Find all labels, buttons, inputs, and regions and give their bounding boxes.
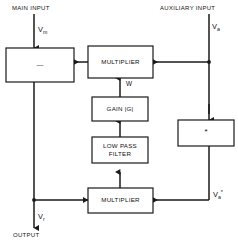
diagram-canvas [0, 0, 238, 246]
va-conj-sub: a [218, 194, 221, 200]
signal-label-vm: Vm [38, 25, 47, 34]
junction-dot-output [32, 198, 36, 202]
lower-multiplier-block [88, 188, 153, 213]
gain-block [92, 97, 148, 121]
signal-label-vr: Vr [38, 212, 45, 221]
va-sub: a [217, 26, 220, 32]
signal-label-va-conjugate: Va* [213, 190, 223, 199]
low-pass-filter-block [92, 137, 148, 163]
summer-symbol: — [6, 61, 74, 68]
auxiliary-input-label: AUXILIARY INPUT [160, 5, 215, 11]
junction-dot-aux [207, 60, 211, 64]
vm-sub: m [43, 29, 47, 35]
signal-label-va: Va [212, 22, 220, 31]
va-conj-sup: * [221, 189, 223, 195]
vr-sub: r [43, 216, 45, 222]
conjugate-symbol: * [178, 128, 234, 136]
block-diagram: MAIN INPUT AUXILIARY INPUT Vm Va Va* W V… [0, 0, 238, 246]
output-label: OUTPUT [13, 232, 39, 238]
signal-label-w: W [126, 80, 132, 87]
main-input-label: MAIN INPUT [12, 5, 50, 11]
upper-multiplier-block [88, 46, 153, 78]
